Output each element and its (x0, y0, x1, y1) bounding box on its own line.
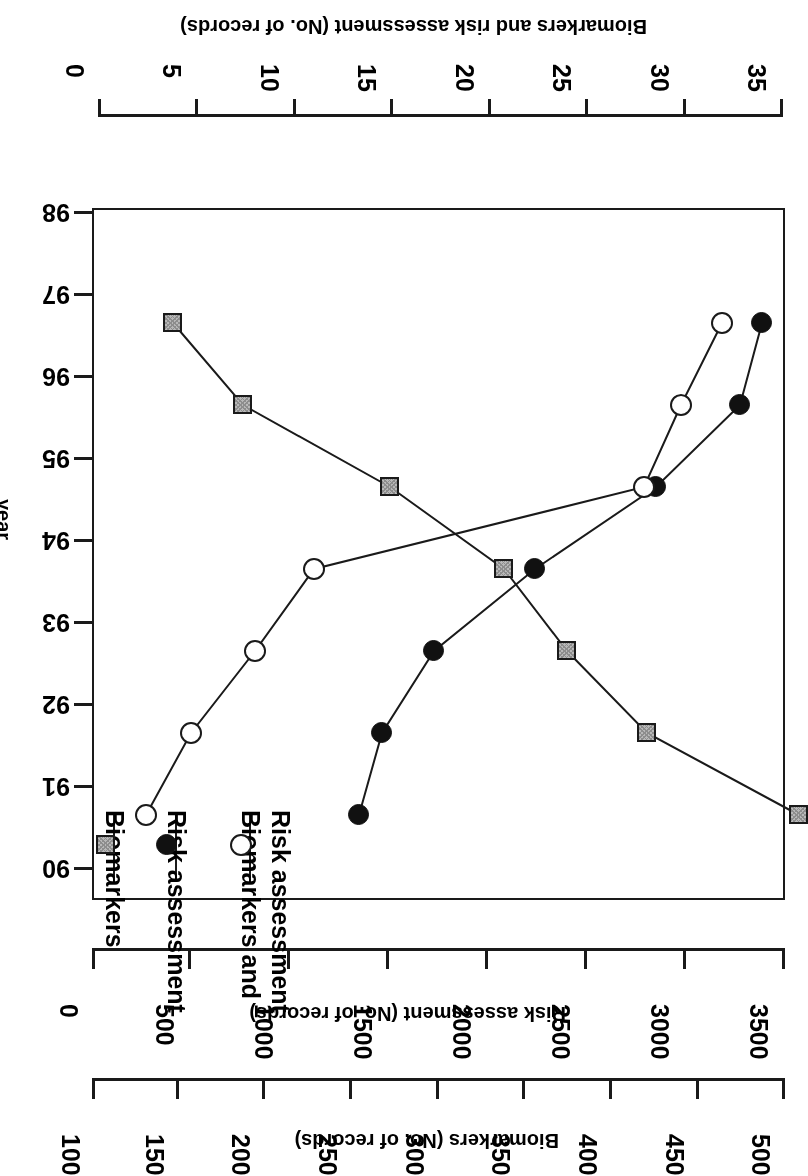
year-axis-title: year (0, 499, 14, 540)
year-tick-label: 93 (42, 610, 70, 635)
data-point-risk-93 (423, 640, 444, 661)
tick (92, 1081, 95, 1099)
year-tick-label: 96 (42, 364, 70, 389)
biomarkers-tick-label: 500 (748, 1134, 773, 1176)
data-point-both-97 (711, 312, 733, 334)
tick (386, 951, 389, 969)
tick (488, 99, 491, 117)
both-tick-label: 0 (62, 64, 87, 78)
data-point-biomarkers-93 (557, 641, 576, 660)
year-tick-label: 98 (42, 200, 70, 225)
year-tick-label: 95 (42, 446, 70, 471)
risk-axis-title: Risk assessment (No. of records) (249, 1004, 566, 1024)
tick (74, 703, 92, 706)
tick (74, 211, 92, 214)
both-tick-label: 30 (647, 64, 672, 92)
tick (74, 293, 92, 296)
data-point-biomarkers-92 (637, 723, 656, 742)
risk-tick-label: 0 (56, 1004, 81, 1018)
tick (782, 1081, 785, 1099)
tick (696, 1081, 699, 1099)
data-point-both-94 (303, 558, 325, 580)
data-point-risk-94 (524, 558, 545, 579)
tick (293, 99, 296, 117)
biomarkers-tick-label: 150 (142, 1134, 167, 1176)
tick (176, 1081, 179, 1099)
biomarkers-tick-label: 100 (58, 1134, 83, 1176)
tick (485, 951, 488, 969)
tick (609, 1081, 612, 1099)
tick (92, 951, 95, 969)
year-tick-label: 90 (42, 856, 70, 881)
tick (584, 951, 587, 969)
both-tick-label: 5 (159, 64, 184, 78)
data-point-both-96 (670, 394, 692, 416)
legend-marker-open-circle-icon (230, 834, 252, 856)
data-point-risk-96 (729, 394, 750, 415)
tick (683, 951, 686, 969)
risk-axis-line (92, 948, 785, 951)
tick (782, 951, 785, 969)
data-point-risk-92 (371, 722, 392, 743)
biomarkers-tick-label: 200 (228, 1134, 253, 1176)
plot-area: Biomarkers Risk assessment Biomarkers an… (92, 208, 785, 900)
tick (349, 1081, 352, 1099)
risk-tick-label: 3500 (746, 1004, 771, 1060)
tick (683, 99, 686, 117)
tick (390, 99, 393, 117)
tick (98, 99, 101, 117)
data-point-biomarkers-95 (380, 477, 399, 496)
tick (74, 867, 92, 870)
tick (780, 99, 783, 117)
legend: Biomarkers Risk assessment Biomarkers an… (103, 638, 243, 878)
year-tick-label: 94 (42, 528, 70, 553)
year-tick-label: 97 (42, 282, 70, 307)
tick (522, 1081, 525, 1099)
year-tick-label: 92 (42, 692, 70, 717)
both-tick-label: 15 (354, 64, 379, 92)
risk-tick-label: 3000 (647, 1004, 672, 1060)
both-axis-line (98, 114, 783, 117)
data-point-biomarkers-97 (163, 313, 182, 332)
tick (262, 1081, 265, 1099)
biomarkers-tick-label: 400 (575, 1134, 600, 1176)
tick (74, 539, 92, 542)
data-point-both-95 (633, 476, 655, 498)
legend-marker-filled-circle-icon (156, 834, 177, 855)
data-point-biomarkers-94 (494, 559, 513, 578)
tick (436, 1081, 439, 1099)
tick (74, 375, 92, 378)
both-tick-label: 25 (549, 64, 574, 92)
data-point-biomarkers-91 (789, 805, 808, 824)
legend-marker-gray-square-icon (96, 835, 115, 854)
both-axis-title: Biomarkers and risk assessment (No. of r… (180, 17, 647, 37)
tick (585, 99, 588, 117)
tick (74, 457, 92, 460)
data-point-risk-91 (348, 804, 369, 825)
data-point-both-93 (244, 640, 266, 662)
tick (195, 99, 198, 117)
tick (74, 621, 92, 624)
data-point-biomarkers-96 (233, 395, 252, 414)
legend-label-risk-assessment-2: Risk assessment (266, 810, 295, 1013)
both-tick-label: 35 (744, 64, 769, 92)
year-tick-label: 91 (42, 774, 70, 799)
both-tick-label: 10 (257, 64, 282, 92)
legend-label-biomarkers: Biomarkers (100, 810, 129, 948)
biomarkers-tick-label: 450 (662, 1134, 687, 1176)
both-tick-label: 20 (452, 64, 477, 92)
biomarkers-axis-title: Biomarkers (No. of records) (294, 1131, 559, 1151)
tick (74, 785, 92, 788)
data-point-risk-97 (751, 312, 772, 333)
